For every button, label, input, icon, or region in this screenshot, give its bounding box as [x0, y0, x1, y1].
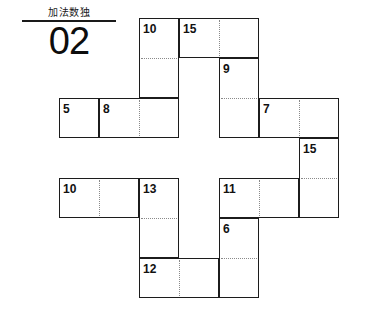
cell-separator-horizontal	[141, 58, 178, 59]
puzzle-page: 加法数独 02 1015958715101311612	[0, 0, 372, 323]
cell-separator-vertical	[179, 260, 180, 297]
cell-separator-horizontal	[301, 178, 338, 179]
cell-separator-horizontal	[221, 258, 258, 259]
cage-clue-12: 12	[143, 263, 156, 275]
cell-separator-vertical	[299, 100, 300, 137]
cage-clue-13: 13	[143, 183, 156, 195]
cell-separator-vertical	[99, 180, 100, 217]
cage-clue-9: 9	[223, 63, 230, 75]
cage-clue-15: 15	[303, 143, 316, 155]
cell-separator-horizontal	[221, 98, 258, 99]
cage-clue-11: 11	[223, 183, 236, 195]
cage-clue-15: 15	[183, 23, 196, 35]
cage-clue-10: 10	[143, 23, 156, 35]
cell-separator-vertical	[139, 100, 140, 137]
cell-separator-horizontal	[141, 218, 178, 219]
cage-clue-8: 8	[103, 103, 110, 115]
cage-clue-5: 5	[63, 103, 70, 115]
cage-clue-6: 6	[223, 223, 230, 235]
cell-separator-vertical	[219, 20, 220, 57]
cage-clue-7: 7	[263, 103, 270, 115]
puzzle-grid: 1015958715101311612	[59, 18, 353, 311]
cell-separator-vertical	[259, 180, 260, 217]
cage-clue-10: 10	[63, 183, 76, 195]
